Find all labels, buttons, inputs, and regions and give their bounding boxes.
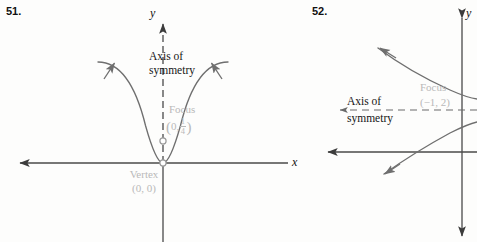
axis-of-symmetry-line2-52: symmetry <box>347 112 393 126</box>
figure-52: 52. <box>300 0 477 242</box>
parabola-upper-arrow-52 <box>380 48 396 58</box>
focus-x-value: 0, <box>171 120 179 132</box>
axis-of-symmetry-line1: Axis of <box>149 50 195 64</box>
figure-51: 51. <box>0 0 300 242</box>
parabola-lower-branch-52 <box>384 122 477 174</box>
vertex-word-51: Vertex <box>114 168 174 181</box>
axis-of-symmetry-line1-52: Axis of <box>347 95 393 109</box>
focus-label-52: Focus (−1, 2) <box>420 81 450 109</box>
y-axis-label-52: y <box>466 6 471 21</box>
focus-fraction-denominator: 4 <box>180 126 186 136</box>
focus-fraction-numerator: 1 <box>180 117 186 126</box>
parabola-lower-arrow-52 <box>385 164 400 174</box>
vertex-coordinates-51: (0, 0) <box>114 182 174 195</box>
vertex-label-51: Vertex (0, 0) <box>114 168 174 195</box>
vertex-point-marker <box>160 160 166 166</box>
x-axis-label-51: x <box>292 155 297 170</box>
figure-51-graph <box>0 0 300 242</box>
focus-label-51: Focus (0,14) <box>166 103 195 136</box>
focus-coordinates-51: (0,14) <box>166 117 195 136</box>
axis-of-symmetry-label-52: Axis of symmetry <box>347 95 393 125</box>
focus-coordinates-52: (−1, 2) <box>420 96 450 109</box>
focus-fraction: 14 <box>180 117 186 135</box>
y-axis-label-51: y <box>150 6 155 21</box>
parabola-right-arrow <box>212 63 223 79</box>
focus-point-marker <box>160 138 166 144</box>
axis-of-symmetry-line2: symmetry <box>149 64 195 78</box>
focus-close-paren: ) <box>187 119 192 135</box>
worksheet-page: 51. <box>0 0 477 242</box>
parabola-left-arrow <box>104 63 115 79</box>
axis-of-symmetry-label-51: Axis of symmetry <box>149 50 195 77</box>
focus-word-51: Focus <box>166 103 195 116</box>
focus-word-52: Focus <box>420 81 450 94</box>
